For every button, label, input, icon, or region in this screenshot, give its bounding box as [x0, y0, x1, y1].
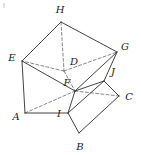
vertex-label-a: A — [12, 112, 19, 122]
edge-D-E-hidden — [22, 61, 64, 71]
vertex-label-j: J — [111, 67, 115, 77]
edge-E-A — [22, 61, 25, 113]
vertex-label-b: B — [76, 142, 83, 152]
vertex-label-e: E — [8, 53, 15, 63]
edge-E-H — [22, 22, 61, 61]
vertex-label-f: F — [64, 78, 71, 88]
vertex-label-i: I — [57, 109, 61, 119]
vertex-label-h: H — [56, 5, 65, 15]
vertex-label-g: G — [121, 42, 129, 52]
edge-B-C — [79, 96, 119, 133]
vertex-label-c: C — [125, 92, 133, 102]
geometry-figure: ABCDEFGHIJ — [0, 0, 141, 155]
edge-I-B — [68, 113, 79, 133]
edge-A-F-hidden — [25, 91, 75, 113]
edge-F-C-hidden — [75, 91, 119, 96]
edge-C-J — [104, 81, 119, 96]
edge-H-D-hidden — [61, 22, 64, 71]
vertex-label-d: D — [70, 57, 78, 67]
edge-F-J — [75, 81, 104, 91]
hidden-edges-group — [22, 22, 119, 113]
edge-H-G — [61, 22, 117, 52]
